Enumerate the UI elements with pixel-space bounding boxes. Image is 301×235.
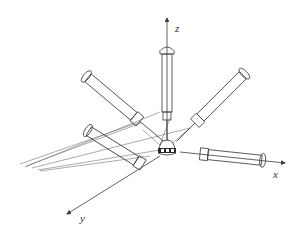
syringe-upper-left bbox=[80, 69, 171, 149]
y-axis: y bbox=[67, 156, 160, 224]
y-axis-label: y bbox=[79, 212, 85, 224]
syringe-axes-diagram: z x y bbox=[0, 0, 301, 235]
z-axis: z bbox=[167, 18, 180, 140]
x-axis: x bbox=[180, 152, 285, 180]
syringe-upper-right bbox=[171, 67, 251, 147]
x-axis-label: x bbox=[272, 168, 278, 180]
z-axis-label: z bbox=[174, 22, 180, 34]
